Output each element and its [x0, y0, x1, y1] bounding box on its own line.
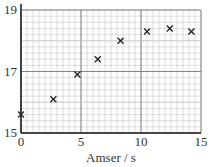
- scatter-chart: 151719 051015 Amser / s: [0, 0, 207, 167]
- x-tick-label: 5: [78, 134, 85, 149]
- y-tick-label: 17: [4, 64, 18, 79]
- x-tick-label: 10: [135, 134, 148, 149]
- x-axis-label: Amser / s: [86, 150, 136, 165]
- y-tick-labels: 151719: [4, 2, 18, 140]
- x-tick-label: 15: [195, 134, 208, 149]
- x-tick-label: 0: [18, 134, 25, 149]
- x-marker-icon: [74, 72, 80, 78]
- x-marker-icon: [50, 96, 56, 102]
- x-tick-labels: 051015: [18, 134, 207, 149]
- y-tick-label: 15: [4, 125, 17, 140]
- y-tick-label: 19: [4, 2, 17, 17]
